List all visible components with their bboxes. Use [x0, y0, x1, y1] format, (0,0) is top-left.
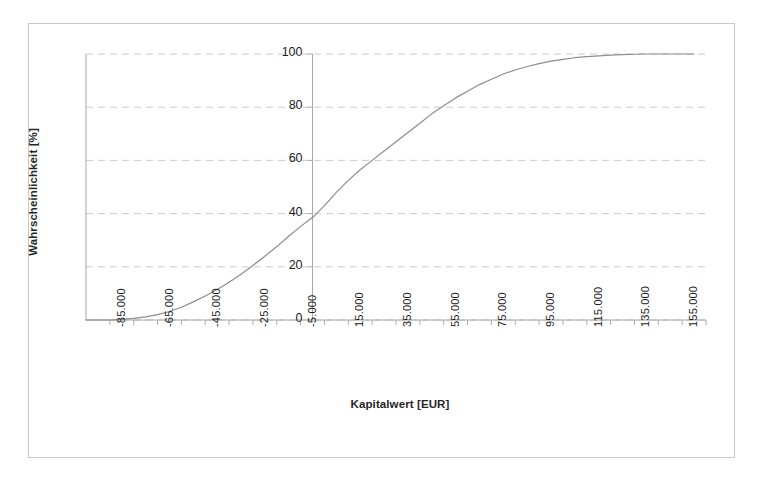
series-line-0 — [86, 54, 694, 320]
x-tick-label: 75.000 — [496, 292, 508, 327]
x-tick-label: 15.000 — [353, 292, 365, 327]
x-tick-label: 135.000 — [639, 286, 651, 327]
chart-canvas: Wahrscheinlichkeit [%] Kapitalwert [EUR]… — [0, 0, 757, 488]
gridlines — [86, 54, 706, 320]
axis-lines — [86, 54, 706, 320]
y-tick-label: 60 — [269, 151, 303, 165]
x-tick-label: -45.000 — [210, 288, 222, 327]
axis-ticks — [110, 54, 706, 325]
data-series — [86, 54, 694, 320]
x-tick-label: 155.000 — [687, 286, 699, 327]
x-tick-label: 95.000 — [544, 292, 556, 327]
x-tick-label: -85.000 — [115, 288, 127, 327]
y-tick-label: 40 — [269, 205, 303, 219]
y-tick-label: 100 — [269, 45, 303, 59]
y-tick-label: 20 — [269, 258, 303, 272]
y-tick-label: 0 — [269, 311, 303, 325]
x-tick-label: -5.000 — [306, 295, 318, 327]
x-tick-label: -65.000 — [163, 288, 175, 327]
x-tick-label: 35.000 — [401, 292, 413, 327]
plot-area — [0, 0, 757, 488]
y-tick-label: 80 — [269, 98, 303, 112]
x-tick-label: 115.000 — [592, 287, 604, 327]
x-tick-label: 55.000 — [449, 292, 461, 327]
